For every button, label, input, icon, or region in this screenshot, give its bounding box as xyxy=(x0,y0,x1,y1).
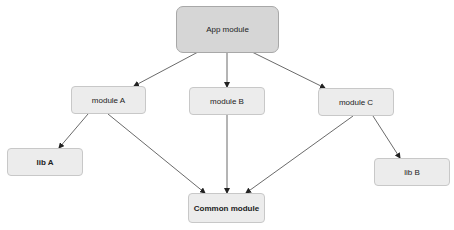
node-label: App module xyxy=(206,25,249,34)
edge-app-to-c xyxy=(252,52,325,88)
node-common-module[interactable]: Common module xyxy=(188,193,265,223)
node-app-module[interactable]: App module xyxy=(176,6,279,53)
edge-a-to-liba xyxy=(59,114,88,148)
edge-c-to-common xyxy=(246,116,353,193)
node-label: Common module xyxy=(194,204,259,213)
edge-app-to-a xyxy=(134,52,198,86)
edge-c-to-libb xyxy=(373,116,400,158)
node-module-c[interactable]: module C xyxy=(318,88,394,116)
node-label: module B xyxy=(210,97,244,106)
edge-a-to-common xyxy=(108,114,205,193)
node-lib-b[interactable]: lib B xyxy=(374,158,450,186)
node-label: lib B xyxy=(404,168,420,177)
node-label: module A xyxy=(92,96,125,105)
node-lib-a[interactable]: lib A xyxy=(7,148,83,176)
node-module-b[interactable]: module B xyxy=(189,87,265,115)
node-label: lib A xyxy=(36,158,53,167)
node-module-a[interactable]: module A xyxy=(71,86,146,114)
node-label: module C xyxy=(339,98,373,107)
